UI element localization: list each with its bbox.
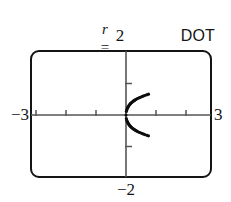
curve-dot	[147, 134, 150, 137]
plot-canvas	[0, 0, 231, 202]
axes-group	[31, 51, 211, 177]
polar-graph-figure: r = sin θ tan θ DOT 2 −2 −3 3	[0, 0, 231, 202]
curve-dot	[147, 93, 150, 96]
curve-dot	[124, 113, 127, 116]
